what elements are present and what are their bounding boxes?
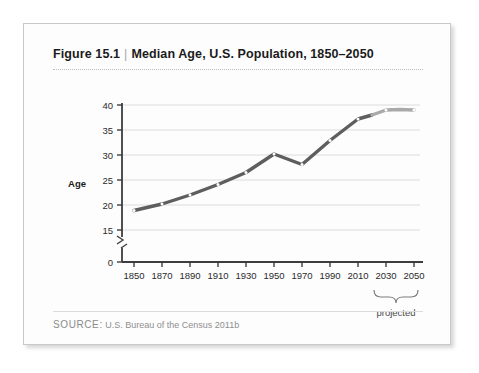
x-tick-label-1950: 1950 <box>263 270 284 281</box>
y-tick-label-35: 35 <box>102 125 113 136</box>
data-point-marker <box>329 139 332 142</box>
data-point-marker <box>161 203 164 206</box>
data-point-marker <box>385 109 388 112</box>
x-tick-label-1890: 1890 <box>179 270 200 281</box>
data-point-marker <box>189 194 192 197</box>
data-point-marker <box>357 118 360 121</box>
source-text: U.S. Bureau of the Census 2011b <box>105 320 239 330</box>
data-point-marker <box>245 171 248 174</box>
y-tick-label-15: 15 <box>102 225 113 236</box>
chart-plot-area: 40 35 30 25 20 15 0 Age <box>24 24 452 346</box>
data-point-marker <box>413 109 416 112</box>
data-point-marker <box>133 209 136 212</box>
gridlines <box>122 105 420 230</box>
x-tick-label-1910: 1910 <box>207 270 228 281</box>
axis-break-mark <box>117 236 123 244</box>
data-line-projected <box>372 110 414 116</box>
x-tick-label-1990: 1990 <box>319 270 340 281</box>
line-chart-svg: 40 35 30 25 20 15 0 Age <box>24 24 452 346</box>
projected-brace <box>374 290 418 303</box>
projected-label: projected <box>376 307 415 318</box>
y-tick-label-40: 40 <box>102 100 113 111</box>
source-line: SOURCE: U.S. Bureau of the Census 2011b <box>53 319 239 330</box>
figure-card: Figure 15.1|Median Age, U.S. Population,… <box>23 23 451 345</box>
source-divider <box>53 311 423 312</box>
y-axis-label: Age <box>68 178 86 189</box>
x-tick-label-2050: 2050 <box>403 270 424 281</box>
x-tick-label-1970: 1970 <box>291 270 312 281</box>
y-tick-label-0: 0 <box>108 257 113 268</box>
y-axis <box>117 103 127 262</box>
x-tick-label-1870: 1870 <box>151 270 172 281</box>
y-tick-label-20: 20 <box>102 200 113 211</box>
y-tick-label-30: 30 <box>102 150 113 161</box>
data-point-marker <box>301 163 304 166</box>
x-tick-label-1930: 1930 <box>235 270 256 281</box>
data-line-observed <box>134 115 372 211</box>
y-tick-label-25: 25 <box>102 175 113 186</box>
x-tick-label-2030: 2030 <box>375 270 396 281</box>
x-tick-label-2010: 2010 <box>347 270 368 281</box>
source-key: SOURCE: <box>53 319 103 330</box>
data-point-marker <box>217 183 220 186</box>
data-point-markers <box>133 109 416 213</box>
x-tick-label-1850: 1850 <box>123 270 144 281</box>
data-point-marker <box>273 153 276 156</box>
